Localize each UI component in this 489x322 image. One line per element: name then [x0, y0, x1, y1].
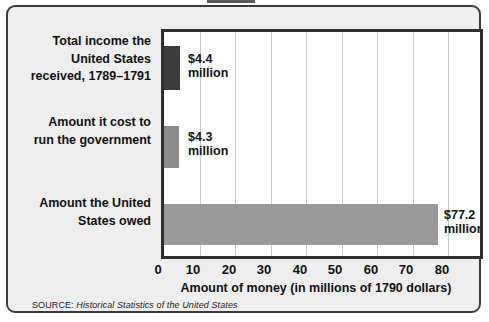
xtick-60: 60: [351, 262, 391, 277]
bar-value-amount: $4.3: [188, 130, 228, 144]
category-label-line: Amount the United: [6, 195, 151, 213]
xtick-50: 50: [315, 262, 355, 277]
top-edge-artifact: [207, 0, 255, 3]
xtick-30: 30: [244, 262, 284, 277]
category-label-amount-owed: Amount the United States owed: [6, 195, 151, 230]
x-axis-title: Amount of money (in millions of 1790 dol…: [155, 281, 477, 295]
source-title: Historical Statistics of the United Stat…: [76, 300, 237, 310]
category-label-line: Amount it cost to: [6, 114, 151, 132]
xtick-0: 0: [138, 262, 178, 277]
xtick-70: 70: [386, 262, 426, 277]
bar-value-label-cost-to-run: $4.3 million: [188, 130, 228, 158]
category-label-line: run the government: [6, 132, 151, 150]
bar-value-unit: million: [444, 222, 480, 236]
source-note: SOURCE: Historical Statistics of the Uni…: [32, 300, 238, 310]
category-label-line: States owed: [6, 213, 151, 231]
plot-area: $4.4 million $4.3 million $77.2 million: [161, 29, 483, 259]
bar-value-unit: million: [188, 144, 228, 158]
plot-inner: $4.4 million $4.3 million $77.2 million: [164, 32, 480, 256]
bar-value-amount: $77.2: [444, 208, 480, 222]
bar-value-unit: million: [188, 66, 228, 80]
bar-total-income: [164, 46, 180, 90]
category-label-line: United States: [6, 51, 151, 69]
bar-value-label-total-income: $4.4 million: [188, 52, 228, 80]
category-label-line: Total income the: [6, 33, 151, 51]
bar-cost-to-run: [164, 126, 179, 168]
xtick-40: 40: [280, 262, 320, 277]
bar-amount-owed: [164, 204, 438, 245]
source-label: SOURCE:: [32, 300, 74, 310]
chart-screenshot: Total income the United States received,…: [0, 0, 489, 322]
bar-value-amount: $4.4: [188, 52, 228, 66]
category-label-total-income: Total income the United States received,…: [6, 33, 151, 86]
bar-value-label-amount-owed: $77.2 million: [444, 208, 480, 236]
xtick-20: 20: [209, 262, 249, 277]
chart-card: Total income the United States received,…: [6, 5, 481, 313]
xtick-80: 80: [422, 262, 462, 277]
category-label-line: received, 1789–1791: [6, 68, 151, 86]
xtick-10: 10: [173, 262, 213, 277]
category-label-cost-to-run: Amount it cost to run the government: [6, 114, 151, 149]
